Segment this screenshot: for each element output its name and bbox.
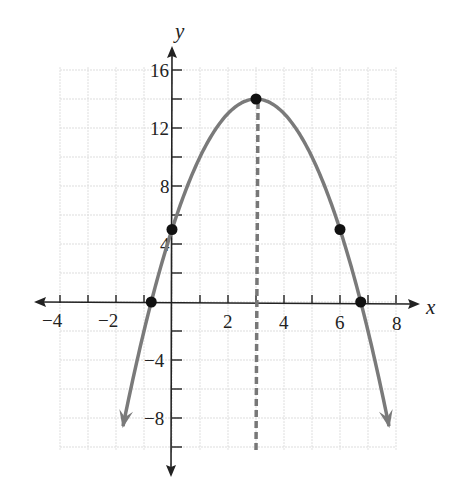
x-tick-label: 2 [223, 311, 233, 332]
point-x-intercept-left [146, 297, 157, 308]
x-axis-label: x [425, 295, 436, 319]
y-axis-label: y [173, 19, 185, 43]
axes [34, 46, 420, 477]
ticks [60, 70, 396, 447]
y-tick-label: 16 [150, 60, 169, 81]
y-tick-label: 8 [160, 176, 170, 197]
x-tick-labels: −4 −2 2 4 6 8 [42, 310, 402, 334]
x-tick-label: −2 [98, 310, 118, 331]
x-tick-label: 4 [279, 312, 289, 333]
point-y-intercept [167, 224, 178, 235]
x-tick-label: 6 [335, 312, 345, 333]
parabola-graph: y x −4 −2 2 4 6 8 16 12 8 4 −4 −8 [0, 0, 458, 501]
point-x-intercept-right [355, 297, 366, 308]
x-tick-label: −4 [42, 310, 63, 331]
y-axis [171, 52, 172, 470]
point-vertex [251, 94, 262, 105]
x-tick-label: 8 [392, 313, 402, 334]
grid [60, 67, 396, 450]
y-tick-label: −8 [144, 408, 164, 429]
y-tick-label: −4 [144, 350, 165, 371]
point-symmetric-point [335, 224, 346, 235]
y-tick-label: 12 [150, 118, 169, 139]
